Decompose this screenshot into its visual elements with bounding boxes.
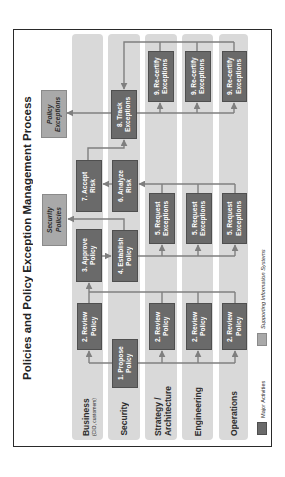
activity-review-policy-operations: 2. ReviewPolicy <box>222 303 247 350</box>
activity-establish-policy: 4. EstablishPolicy <box>112 230 138 282</box>
activity-accept-risk: 7. AcceptRisk <box>76 160 102 212</box>
activity-analyze-risk: 6. AnalyzeRisk <box>112 160 138 212</box>
diagram-title: Policies and Policy Exception Management… <box>20 113 33 363</box>
activity-recertify-exceptions-operations: 9. Re-certifyExceptions <box>222 51 247 102</box>
activity-request-exceptions-operations: 5. RequestExceptions <box>222 193 247 244</box>
activity-recertify-exceptions-engineering: 9. Re-certifyExceptions <box>185 51 211 102</box>
activity-track-exceptions: 8. TrackExceptions <box>111 90 137 139</box>
system-policy-exceptions: PolicyExceptions <box>41 90 67 138</box>
system-security-policies: SecurityPolicies <box>42 194 67 246</box>
legend-swatch-supporting-systems <box>257 333 267 346</box>
lane-label-strategy-architecture: Strategy / Architecture <box>148 386 177 436</box>
activity-request-exceptions-strategy: 5. RequestExceptions <box>149 193 175 244</box>
activity-recertify-exceptions-strategy: 9. Re-certifyExceptions <box>148 51 174 102</box>
activity-review-policy-engineering: 2. ReviewPolicy <box>186 303 212 350</box>
lane-label-business: Business (CIO, customers) <box>75 398 103 436</box>
activity-request-exceptions-engineering: 5. RequestExceptions <box>186 193 212 244</box>
activity-propose-policy: 1. ProposePolicy <box>112 339 138 388</box>
lane-label-operations: Operations <box>224 391 243 436</box>
activity-review-policy-strategy: 2. ReviewPolicy <box>149 303 175 350</box>
legend-label-supporting-systems: Supporting Information Systems <box>257 200 268 329</box>
legend-swatch-major-activities <box>257 422 267 435</box>
activity-review-policy-business: 2. ReviewPolicy <box>77 303 102 350</box>
lane-label-security: Security <box>113 402 135 436</box>
legend-label-major-activities: Major Activities <box>257 350 268 418</box>
activity-approve-policy: 3. ApprovePolicy <box>76 229 102 282</box>
lane-label-engineering: Engineering <box>187 387 208 436</box>
